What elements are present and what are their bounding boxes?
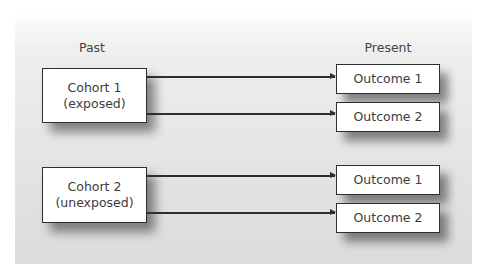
arrow-cohort-1-to-outcome-2 (147, 113, 335, 115)
arrow-cohort-1-to-outcome-1 (147, 76, 335, 78)
cohort-2-outcome-2-box: Outcome 2 (336, 203, 440, 233)
cohort-1-label: Cohort 1 (68, 80, 122, 96)
cohort-1-box: Cohort 1 (exposed) (42, 68, 147, 123)
cohort-1-outcome-2-box: Outcome 2 (336, 102, 440, 132)
cohort-2-outcome-1-box: Outcome 1 (336, 165, 440, 195)
cohort-2-outcome-2-label: Outcome 2 (354, 210, 423, 226)
cohort-1-outcome-1-box: Outcome 1 (336, 64, 440, 94)
cohort-2-box: Cohort 2 (unexposed) (42, 167, 147, 223)
cohort-2-sublabel: (unexposed) (55, 195, 133, 211)
heading-present: Present (356, 40, 420, 55)
arrow-cohort-2-to-outcome-1 (147, 175, 335, 177)
arrow-cohort-2-to-outcome-2 (147, 212, 335, 214)
cohort-1-sublabel: (exposed) (63, 96, 125, 112)
cohort-2-outcome-1-label: Outcome 1 (354, 172, 423, 188)
cohort-1-outcome-2-label: Outcome 2 (354, 109, 423, 125)
heading-past: Past (62, 40, 122, 55)
cohort-1-outcome-1-label: Outcome 1 (354, 71, 423, 87)
cohort-2-label: Cohort 2 (68, 179, 122, 195)
